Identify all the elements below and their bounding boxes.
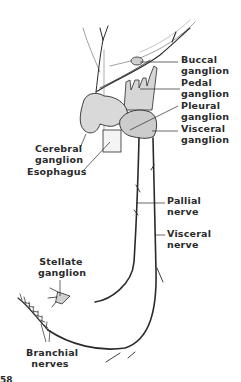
label-visceral-nerve: Visceral nerve (167, 229, 211, 250)
label-esophagus: Esophagus (27, 167, 87, 178)
label-cerebral-ganglion: Cerebral ganglion (35, 144, 79, 165)
label-stellate-ganglion: Stellate ganglion (38, 257, 84, 278)
leader-branchial-2 (49, 330, 50, 342)
label-pallial-nerve: Pallial nerve (167, 196, 201, 217)
buccal-ganglion-shape (131, 57, 143, 65)
figure-number-partial: 58 (0, 376, 13, 382)
stellate-ganglion-shape (56, 292, 70, 304)
arm-outline-left (83, 28, 100, 72)
pleural-visceral-ganglion-shape (120, 110, 157, 138)
label-pleural-ganglion: Pleural ganglion (181, 101, 229, 122)
pallial-nerve-line (95, 138, 139, 302)
nerve-branch-left (96, 26, 108, 92)
label-branchial-nerves: Branchial nerves (26, 348, 74, 369)
label-visceral-ganglion: Visceral ganglion (181, 124, 229, 145)
esophagus-shape (103, 130, 121, 152)
branchial-nerve-line (18, 298, 48, 330)
label-buccal-ganglion: Buccal ganglion (181, 55, 229, 76)
label-pedal-ganglion: Pedal ganglion (181, 78, 229, 99)
